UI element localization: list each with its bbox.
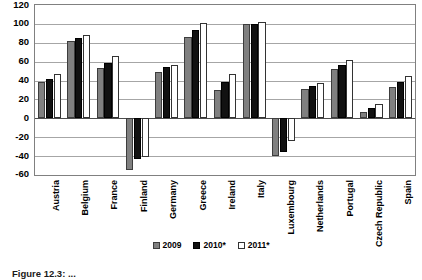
bar [405,76,412,119]
chart-plot-wrapper: 120 100 80 60 40 20 0 -20 -40 -60 [0,4,422,176]
bar [317,83,324,118]
y-tick-label: -20 [15,132,29,142]
x-axis-category-cell: Ireland [210,178,239,236]
x-axis-category-label: Ireland [228,180,237,210]
bar-group [210,5,239,175]
bar [280,118,287,152]
x-axis-category-cell: France [93,178,122,236]
bar [375,104,382,118]
bar [243,24,250,118]
bar [397,82,404,119]
y-tick-label: 0 [24,113,29,123]
bars-layer [35,5,415,175]
bar [301,89,308,118]
bar [214,90,221,118]
x-axis-category-label: Netherlands [316,180,325,232]
y-tick-label: 40 [18,75,29,85]
bar-group [386,5,415,175]
bar [104,63,111,119]
bar [309,86,316,118]
bar-group [240,5,269,175]
y-tick-label: 60 [18,56,29,66]
y-tick-label: 20 [18,94,29,104]
bar [155,72,162,118]
bar [112,56,119,118]
legend-item[interactable]: 2010* [193,241,225,250]
x-axis-category-cell: Germany [152,178,181,236]
bar [288,118,295,141]
y-tick-label: 120 [13,0,29,10]
x-axis-category-cell: Belgium [63,178,92,236]
legend-item[interactable]: 2009 [153,241,182,250]
bar-group [357,5,386,175]
x-axis-category-cell: Netherlands [299,178,328,236]
x-axis-category-labels: AustriaBelgiumFranceFinlandGermanyGreece… [34,178,416,236]
legend-label: 2010* [203,241,225,250]
gray-square-icon [153,242,160,249]
x-axis-category-label: Austria [52,180,61,211]
bar [75,38,82,118]
bar-group [123,5,152,175]
black-square-icon [193,242,200,249]
bar [200,23,207,118]
bar [126,118,133,170]
bar [251,24,258,118]
white-square-icon [238,242,245,249]
figure-caption: Figure 12.3: ... [12,268,412,280]
legend-item[interactable]: 2011* [238,241,270,250]
y-tick-label: -60 [15,169,29,179]
bar [229,74,236,118]
bar [83,35,90,118]
legend-label: 2011* [248,241,270,250]
plot-area [34,4,416,176]
bar-group [269,5,298,175]
x-axis-category-cell: Luxembourg [269,178,298,236]
x-axis-category-label: Portugal [346,180,355,217]
bar [368,108,375,118]
x-axis-category-label: Finland [140,180,149,212]
bar [346,60,353,119]
y-axis: 120 100 80 60 40 20 0 -20 -40 -60 [0,4,32,176]
chart-legend: 20092010*2011* [0,241,422,250]
bar [54,74,61,118]
x-axis-category-cell: Italy [240,178,269,236]
legend-label: 2009 [163,241,182,250]
bar-group [181,5,210,175]
bar [171,65,178,119]
bar-group [64,5,93,175]
y-tick-label: -40 [15,151,29,161]
bar [142,118,149,157]
bar [163,67,170,118]
y-tick-label: 100 [13,18,29,28]
bar [258,22,265,118]
x-axis-category-cell: Czech Republic [357,178,386,236]
bar [338,65,345,119]
bar [67,41,74,118]
x-axis-category-label: France [110,180,119,210]
x-axis-category-cell: Austria [34,178,63,236]
bar-group [35,5,64,175]
bar-group [327,5,356,175]
bar [272,118,279,156]
x-axis-category-label: Czech Republic [375,180,384,247]
x-axis-category-cell: Portugal [328,178,357,236]
bar [221,82,228,118]
x-axis-category-label: Luxembourg [287,180,296,235]
x-axis-category-label: Greece [199,180,208,211]
bar [389,87,396,118]
x-axis-category-cell: Greece [181,178,210,236]
bar [97,68,104,118]
bar [192,30,199,119]
x-axis-category-cell: Finland [122,178,151,236]
x-axis-category-label: Belgium [81,180,90,216]
bar-group [298,5,327,175]
bar [331,69,338,118]
x-axis-category-label: Spain [404,180,413,205]
figure: 120 100 80 60 40 20 0 -20 -40 -60 Austri… [0,0,422,280]
bar [184,37,191,118]
bar-group [93,5,122,175]
bar [360,112,367,119]
y-tick-label: 80 [18,37,29,47]
bar [134,118,141,159]
bar [46,79,53,119]
